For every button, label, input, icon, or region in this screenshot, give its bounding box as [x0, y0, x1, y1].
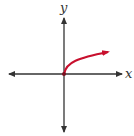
x-axis-label: x [125, 66, 133, 81]
origin-point [62, 72, 66, 76]
y-axis-label: y [59, 0, 68, 15]
sqrt-curve [64, 52, 108, 74]
graph: x y [0, 0, 134, 136]
